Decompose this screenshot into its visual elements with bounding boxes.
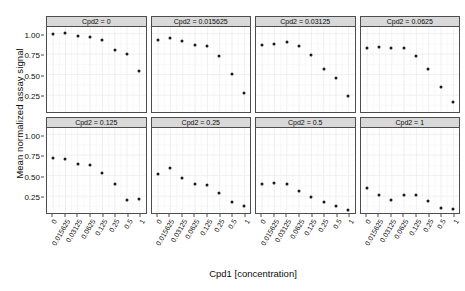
x-axis-tick-mark — [311, 214, 312, 217]
data-point — [181, 176, 184, 179]
faceted-scatter-chart: Mean normalized assay signal Cpd1 [conce… — [0, 0, 465, 291]
x-axis-tick-label: 0.25 — [422, 218, 435, 233]
x-axis-tick-mark — [416, 214, 417, 217]
x-axis-tick-mark — [441, 214, 442, 217]
data-point — [89, 36, 92, 39]
data-point — [347, 94, 350, 97]
x-axis-tick-label: 0.03125 — [169, 218, 188, 243]
facet-strip-label: Cpd2 = 0.125 — [75, 119, 117, 126]
x-axis-tick-label: 0.015625 — [259, 218, 280, 247]
x-axis-tick-mark — [102, 214, 103, 217]
plot-area — [255, 26, 356, 113]
x-axis-tick-label: 0.0625 — [79, 218, 96, 240]
data-point — [218, 55, 221, 58]
data-point — [242, 204, 245, 207]
facet-strip: Cpd2 = 0.0625 — [360, 16, 461, 26]
facet-strip: Cpd2 = 0.5 — [255, 117, 356, 127]
x-axis-tick-mark — [181, 214, 182, 217]
data-point — [52, 33, 55, 36]
x-axis-tick-label: 1 — [452, 218, 460, 225]
x-axis-tick-label: 0.015625 — [155, 218, 176, 247]
facet-panel: Cpd2 = 0.25 — [151, 117, 252, 214]
y-axis-title: Mean normalized assay signal — [14, 14, 25, 214]
x-axis-tick-label: 0.0625 — [393, 218, 410, 240]
facet-strip: Cpd2 = 0.25 — [151, 117, 252, 127]
data-point — [156, 172, 159, 175]
x-axis: 00.0156250.031250.06250.1250.250.51 — [255, 214, 356, 266]
x-axis-tick-mark — [324, 214, 325, 217]
data-point — [113, 48, 116, 51]
facet-strip-label: Cpd2 = 0.5 — [288, 119, 322, 126]
x-axis-tick-mark — [127, 214, 128, 217]
x-axis-tick-mark — [140, 214, 141, 217]
x-axis-tick-label: 0.25 — [213, 218, 226, 233]
x-axis-tick-mark — [349, 214, 350, 217]
facet-strip: Cpd2 = 0.03125 — [255, 16, 356, 26]
data-point — [335, 77, 338, 80]
x-axis-tick-label: 0.5 — [332, 218, 343, 230]
x-axis-tick-mark — [156, 214, 157, 217]
y-axis-tick-label: 1.00 — [24, 30, 40, 39]
x-axis-tick-label: 0.125 — [198, 218, 213, 237]
data-point — [451, 207, 454, 210]
facet-panel: Cpd2 = 0.125 — [46, 117, 147, 214]
data-point — [168, 37, 171, 40]
x-axis-tick-label: 0.25 — [317, 218, 330, 233]
data-point — [451, 101, 454, 104]
x-axis: 00.0156250.031250.06250.1250.250.51 — [151, 214, 252, 266]
data-point — [126, 52, 129, 55]
facet-panel: Cpd2 = 0.0625 — [360, 16, 461, 113]
plot-area — [151, 26, 252, 113]
x-axis-tick-mark — [244, 214, 245, 217]
data-point — [439, 85, 442, 88]
facet-strip: Cpd2 = 0.125 — [46, 117, 147, 127]
data-point — [52, 156, 55, 159]
x-axis-tick-label: 0.125 — [407, 218, 422, 237]
y-axis-tick-label: 0.50 — [24, 172, 40, 181]
data-point — [64, 157, 67, 160]
y-axis-tick-mark — [41, 96, 44, 97]
data-point — [322, 200, 325, 203]
x-axis-tick-mark — [89, 214, 90, 217]
x-axis-tick-mark — [378, 214, 379, 217]
x-axis-tick-label: 1 — [138, 218, 146, 225]
x-axis-tick-label: 0.25 — [108, 218, 121, 233]
x-axis-tick-mark — [390, 214, 391, 217]
facet-strip-label: Cpd2 = 1 — [395, 119, 424, 126]
y-axis-tick-mark — [41, 55, 44, 56]
plot-area — [255, 127, 356, 214]
x-axis-tick-mark — [428, 214, 429, 217]
x-axis-tick-mark — [298, 214, 299, 217]
x-axis-tick-label: 0 — [364, 218, 372, 225]
x-axis-tick-mark — [403, 214, 404, 217]
data-point — [138, 69, 141, 72]
facet-strip-label: Cpd2 = 0.03125 — [280, 18, 330, 25]
x-axis: 00.0156250.031250.06250.1250.250.51 — [46, 214, 147, 266]
facet-strip: Cpd2 = 1 — [360, 117, 461, 127]
data-point — [310, 53, 313, 56]
data-point — [273, 182, 276, 185]
x-axis-tick-mark — [115, 214, 116, 217]
x-axis-tick-mark — [77, 214, 78, 217]
facet-strip-label: Cpd2 = 0 — [82, 18, 111, 25]
y-axis-tick-mark — [41, 75, 44, 76]
data-point — [390, 46, 393, 49]
y-axis-tick-label: 0.25 — [24, 193, 40, 202]
y-axis-tick-mark — [41, 34, 44, 35]
x-axis-tick-label: 0.015625 — [364, 218, 385, 247]
data-point — [261, 44, 264, 47]
facet-panel: Cpd2 = 0 — [46, 16, 147, 113]
x-axis-tick-label: 0.125 — [94, 218, 109, 237]
data-point — [101, 171, 104, 174]
data-point — [261, 183, 264, 186]
facet-strip-label: Cpd2 = 0.25 — [182, 119, 220, 126]
facet-panel: Cpd2 = 1 — [360, 117, 461, 214]
x-axis-tick-mark — [336, 214, 337, 217]
data-point — [365, 46, 368, 49]
x-axis-tick-label: 0 — [50, 218, 58, 225]
x-axis-tick-label: 0.0625 — [288, 218, 305, 240]
x-axis-tick-mark — [365, 214, 366, 217]
x-axis-tick-label: 0.015625 — [50, 218, 71, 247]
x-axis-tick-mark — [169, 214, 170, 217]
data-point — [101, 38, 104, 41]
